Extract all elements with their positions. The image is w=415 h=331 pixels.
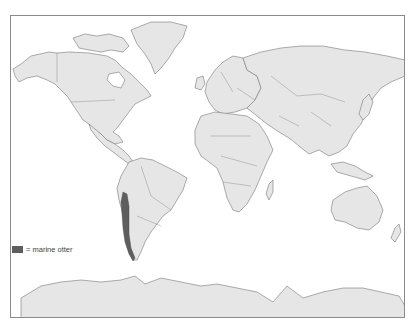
australia bbox=[331, 186, 383, 230]
antarctica bbox=[21, 276, 405, 318]
british-isles bbox=[195, 76, 205, 90]
legend-label: = marine otter bbox=[26, 245, 72, 254]
map-frame bbox=[10, 15, 405, 318]
north-america bbox=[13, 52, 151, 144]
legend-swatch-marine-otter bbox=[12, 246, 23, 253]
new-zealand bbox=[391, 224, 401, 242]
southeast-asia-islands bbox=[331, 162, 373, 180]
map-legend: = marine otter bbox=[12, 245, 72, 254]
world-map bbox=[11, 16, 405, 318]
arctic-islands bbox=[73, 34, 129, 52]
africa bbox=[195, 112, 273, 212]
madagascar bbox=[266, 180, 273, 200]
greenland bbox=[131, 22, 187, 74]
